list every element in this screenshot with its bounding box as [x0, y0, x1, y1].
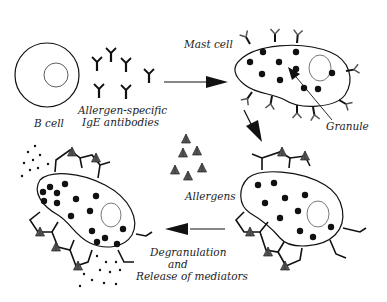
degranulation-label-line3: Release of mediators: [135, 270, 249, 282]
degranulation-label-line2: and: [168, 258, 188, 270]
antibodies-label-line1: Allergen-specific: [77, 104, 167, 116]
mast-cell-crosslinked: [236, 147, 366, 270]
ige-antibodies: [92, 48, 154, 99]
degranulation-label-line1: Degranulation: [149, 246, 227, 258]
allergy-mechanism-diagram: B cell Allergen-specific IgE antibodies …: [0, 0, 387, 302]
mast-cell-degranulating: [30, 147, 152, 270]
arrow-left-icon: [165, 223, 225, 235]
granule-label: Granule: [326, 120, 369, 132]
allergens-label: Allergens: [184, 190, 236, 202]
b-cell-label: B cell: [33, 117, 64, 129]
arrow-right-icon: [164, 76, 228, 88]
mast-cell-label: Mast cell: [183, 38, 233, 50]
allergens-cluster: [171, 134, 207, 180]
antibodies-label-line2: IgE antibodies: [81, 116, 160, 128]
b-cell: [15, 43, 79, 107]
arrow-down-icon: [244, 110, 262, 142]
